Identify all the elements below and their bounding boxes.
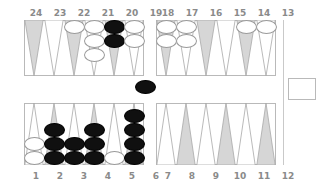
bar-checker[interactable]: [135, 80, 156, 94]
top-point-labels-right: 181716151413: [156, 7, 300, 19]
point-label-16: 16: [204, 7, 228, 19]
point-label-11: 11: [252, 170, 276, 182]
point-label-18: 18: [156, 7, 180, 19]
point-19[interactable]: [124, 20, 144, 76]
point-20[interactable]: [104, 20, 124, 76]
point-17[interactable]: [176, 20, 196, 76]
point-12[interactable]: [256, 103, 276, 165]
point-22[interactable]: [64, 20, 84, 76]
side-rail-divider: [283, 20, 284, 165]
point-label-5: 5: [120, 170, 144, 182]
point-6[interactable]: [124, 103, 144, 165]
point-label-3: 3: [72, 170, 96, 182]
point-label-8: 8: [180, 170, 204, 182]
quadrant-top-right: [156, 20, 276, 76]
point-23[interactable]: [44, 20, 64, 76]
point-label-4: 4: [96, 170, 120, 182]
point-label-1: 1: [24, 170, 48, 182]
point-5[interactable]: [104, 103, 124, 165]
point-4[interactable]: [84, 103, 104, 165]
point-9[interactable]: [196, 103, 216, 165]
quadrant-bottom-right: [156, 103, 276, 165]
point-10[interactable]: [216, 103, 236, 165]
point-label-13: 13: [276, 7, 300, 19]
point-label-10: 10: [228, 170, 252, 182]
point-24[interactable]: [24, 20, 44, 76]
point-label-15: 15: [228, 7, 252, 19]
point-1[interactable]: [24, 103, 44, 165]
point-18[interactable]: [156, 20, 176, 76]
quadrant-top-left: [24, 20, 144, 76]
point-label-12: 12: [276, 170, 300, 182]
point-label-23: 23: [48, 7, 72, 19]
point-label-2: 2: [48, 170, 72, 182]
point-label-14: 14: [252, 7, 276, 19]
point-15[interactable]: [216, 20, 236, 76]
bear-off-tray[interactable]: [288, 78, 316, 100]
point-label-21: 21: [96, 7, 120, 19]
point-11[interactable]: [236, 103, 256, 165]
quadrant-bottom-left: [24, 103, 144, 165]
point-16[interactable]: [196, 20, 216, 76]
bottom-point-labels-left: 123456: [24, 170, 168, 182]
bottom-point-labels-right: 789101112: [156, 170, 300, 182]
backgammon-board: 242322212019 181716151413 123456 7891011…: [0, 0, 319, 184]
point-label-7: 7: [156, 170, 180, 182]
point-21[interactable]: [84, 20, 104, 76]
top-point-labels-left: 242322212019: [24, 7, 168, 19]
point-14[interactable]: [236, 20, 256, 76]
point-2[interactable]: [44, 103, 64, 165]
point-label-9: 9: [204, 170, 228, 182]
point-8[interactable]: [176, 103, 196, 165]
point-label-24: 24: [24, 7, 48, 19]
point-label-22: 22: [72, 7, 96, 19]
point-label-20: 20: [120, 7, 144, 19]
point-13[interactable]: [256, 20, 276, 76]
point-3[interactable]: [64, 103, 84, 165]
point-label-17: 17: [180, 7, 204, 19]
point-7[interactable]: [156, 103, 176, 165]
